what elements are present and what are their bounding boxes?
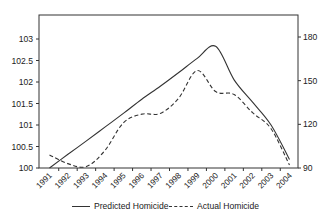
x-tick-label: 2002 bbox=[238, 171, 258, 191]
dashed-line-swatch-icon bbox=[169, 206, 193, 207]
x-tick-label: 1994 bbox=[90, 171, 110, 191]
x-tick-label: 1998 bbox=[164, 171, 184, 191]
x-tick-label: 1991 bbox=[35, 171, 55, 191]
left-tick-label: 100.5 bbox=[11, 142, 33, 152]
x-tick-label: 1997 bbox=[145, 171, 165, 191]
left-tick-label: 101.5 bbox=[11, 99, 33, 109]
x-axis: 1991199219931994199519961997199819992000… bbox=[35, 168, 295, 190]
legend-item-predicted: Predicted Homicide bbox=[72, 199, 169, 213]
dual-axis-line-chart: 100100.5101101.5102102.5103 90120150180 … bbox=[0, 0, 329, 221]
legend-item-actual: Actual Homicide bbox=[169, 199, 259, 213]
left-tick-label: 100 bbox=[19, 163, 34, 173]
x-tick-label: 1993 bbox=[72, 171, 92, 191]
right-tick-label: 180 bbox=[303, 32, 318, 42]
predicted-homicide-line bbox=[50, 46, 290, 168]
left-y-axis: 100100.5101101.5102102.5103 bbox=[11, 34, 39, 173]
chart-legend: Predicted Homicide Actual Homicide bbox=[0, 199, 329, 213]
x-tick-label: 1995 bbox=[109, 171, 129, 191]
legend-label-actual: Actual Homicide bbox=[197, 201, 259, 211]
x-tick-label: 1996 bbox=[127, 171, 147, 191]
x-tick-label: 1992 bbox=[53, 171, 73, 191]
solid-line-swatch-icon bbox=[72, 206, 90, 207]
actual-homicide-line bbox=[50, 70, 290, 167]
x-tick-label: 2001 bbox=[219, 171, 239, 191]
right-tick-label: 120 bbox=[303, 119, 318, 129]
x-tick-label: 1999 bbox=[182, 171, 202, 191]
left-tick-label: 103 bbox=[19, 34, 34, 44]
right-y-axis: 90120150180 bbox=[298, 32, 318, 173]
right-tick-label: 90 bbox=[303, 163, 313, 173]
x-tick-label: 2000 bbox=[201, 171, 221, 191]
left-tick-label: 102.5 bbox=[11, 56, 33, 66]
x-tick-label: 2004 bbox=[275, 171, 295, 191]
legend-label-predicted: Predicted Homicide bbox=[94, 201, 169, 211]
x-tick-label: 2003 bbox=[256, 171, 276, 191]
left-tick-label: 102 bbox=[19, 77, 34, 87]
right-tick-label: 150 bbox=[303, 76, 318, 86]
plot-frame bbox=[39, 15, 298, 168]
left-tick-label: 101 bbox=[19, 120, 34, 130]
